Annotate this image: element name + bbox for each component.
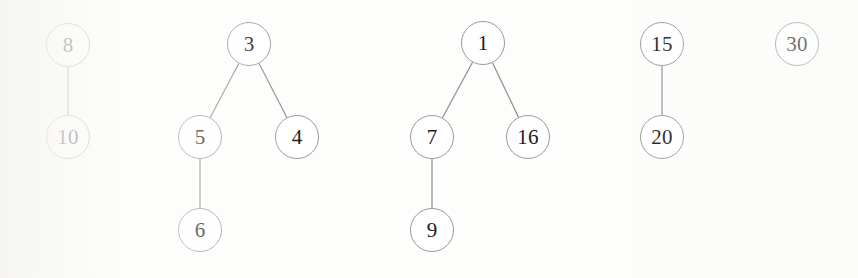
tree-node-15: 15 — [640, 22, 684, 66]
tree-node-label: 15 — [651, 34, 672, 55]
tree-edge — [492, 63, 518, 117]
tree-node-label: 4 — [292, 127, 303, 148]
binary-tree-forest-diagram: 810354617169152030 — [0, 0, 858, 278]
tree-node-30: 30 — [775, 22, 819, 66]
tree-node-8: 8 — [46, 23, 90, 67]
tree-node-3: 3 — [227, 22, 271, 66]
tree-node-1: 1 — [461, 21, 505, 65]
tree-node-label: 5 — [195, 127, 206, 148]
tree-node-7: 7 — [410, 115, 454, 159]
tree-node-9: 9 — [410, 208, 454, 252]
tree-node-10: 10 — [46, 115, 90, 159]
tree-node-label: 8 — [63, 35, 74, 56]
tree-node-20: 20 — [640, 115, 684, 159]
tree-node-label: 7 — [427, 127, 438, 148]
tree-edge — [210, 63, 238, 117]
tree-node-label: 9 — [427, 220, 438, 241]
tree-node-6: 6 — [178, 208, 222, 252]
tree-node-label: 6 — [195, 220, 206, 241]
tree-edge — [442, 62, 472, 117]
tree-node-label: 1 — [478, 33, 489, 54]
tree-node-label: 30 — [786, 34, 807, 55]
tree-node-label: 16 — [517, 127, 538, 148]
tree-node-label: 3 — [244, 34, 255, 55]
tree-node-16: 16 — [506, 115, 550, 159]
tree-node-label: 20 — [651, 127, 672, 148]
tree-node-5: 5 — [178, 115, 222, 159]
tree-node-label: 10 — [57, 127, 78, 148]
tree-node-4: 4 — [275, 115, 319, 159]
tree-edge — [259, 64, 287, 118]
